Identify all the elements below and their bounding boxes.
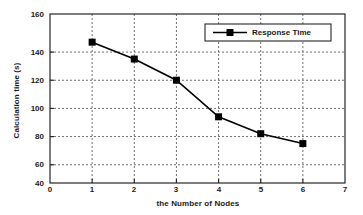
x-tick-label-4: 4 bbox=[209, 185, 229, 194]
y-tick-label-160: 160 bbox=[14, 10, 44, 19]
data-point[interactable] bbox=[215, 113, 222, 120]
chart-figure: Response Time 40 60 80 100 120 140 160 0… bbox=[0, 0, 363, 215]
data-point[interactable] bbox=[299, 140, 306, 147]
data-point[interactable] bbox=[173, 77, 180, 84]
x-tick-label-2: 2 bbox=[124, 185, 144, 194]
y-tick-label-60: 60 bbox=[14, 160, 44, 169]
data-point[interactable] bbox=[89, 39, 96, 46]
legend-marker-sample bbox=[227, 29, 234, 36]
x-axis-label: the Number of Nodes bbox=[50, 199, 346, 208]
y-axis-label: Calculation time (s) bbox=[12, 41, 21, 161]
x-tick-label-5: 5 bbox=[251, 185, 271, 194]
legend-entry-label: Response Time bbox=[252, 28, 311, 37]
x-tick-label-3: 3 bbox=[166, 185, 186, 194]
x-tick-label-7: 7 bbox=[335, 185, 355, 194]
x-tick-label-0: 0 bbox=[40, 185, 60, 194]
x-tick-label-6: 6 bbox=[293, 185, 313, 194]
data-point[interactable] bbox=[131, 56, 138, 63]
x-tick-label-1: 1 bbox=[82, 185, 102, 194]
data-point[interactable] bbox=[257, 130, 264, 137]
